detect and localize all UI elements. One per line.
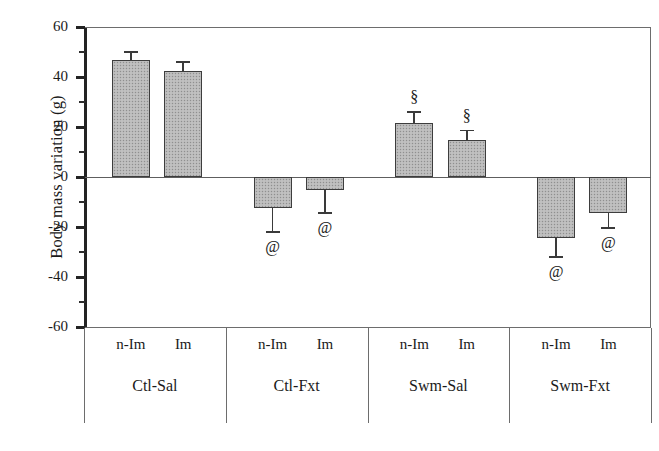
x-sub-label: Im [290,337,360,352]
error-bar-cap [124,51,138,53]
error-bar-cap [460,130,474,132]
y-tick-minor [79,301,85,303]
x-group-label: Ctl-Fxt [222,378,372,394]
error-bar-stem [555,238,557,256]
error-bar-cap [318,212,332,214]
bar [112,60,150,178]
y-tick-major [76,26,85,29]
bar [306,177,344,190]
y-tick-label: 0 [28,169,68,184]
y-tick-minor [79,251,85,253]
error-bar-cap [549,256,563,258]
y-tick-major [76,126,85,129]
significance-marker: @ [305,220,345,236]
y-tick-major [76,176,85,179]
plot-frame-top [84,27,651,28]
bar [395,123,433,177]
x-sub-label: Im [573,337,643,352]
y-tick-label: 20 [28,119,68,134]
error-bar-cap [407,111,421,113]
category-separator [226,328,227,423]
y-tick-minor [79,151,85,153]
bar [589,177,627,213]
x-sub-label: Im [148,337,218,352]
bar [448,140,486,178]
y-tick-label: -20 [28,219,68,234]
y-tick-minor [79,101,85,103]
error-bar-cap [266,231,280,233]
y-tick-label: -40 [28,269,68,284]
category-separator [368,328,369,423]
y-tick-label: 40 [28,69,68,84]
category-separator [651,328,652,423]
error-bar-stem [413,111,415,124]
error-bar-stem [324,190,326,213]
error-bar-cap [176,61,190,63]
significance-marker: @ [253,239,293,255]
error-bar-stem [272,208,274,231]
error-bar-stem [608,213,610,227]
y-tick-label: 60 [28,19,68,34]
y-tick-minor [79,201,85,203]
category-separator [509,328,510,423]
significance-marker: § [394,89,434,105]
bar [254,177,292,208]
significance-marker: @ [536,264,576,280]
bar-chart-figure: Body mass variation (g) 6040200-20-40-60… [0,0,659,451]
significance-marker: § [447,108,487,124]
x-group-label: Swm-Fxt [505,378,655,394]
y-tick-major [76,226,85,229]
y-tick-major [76,76,85,79]
error-bar-cap [601,227,615,229]
category-separator [84,328,85,423]
y-tick-label: -60 [28,319,68,334]
y-tick-major [76,276,85,279]
significance-marker: @ [588,235,628,251]
x-sub-label: Im [432,337,502,352]
x-group-label: Ctl-Sal [80,378,230,394]
bar [537,177,575,238]
bar [164,71,202,177]
y-tick-minor [79,51,85,53]
x-group-label: Swm-Sal [363,378,513,394]
